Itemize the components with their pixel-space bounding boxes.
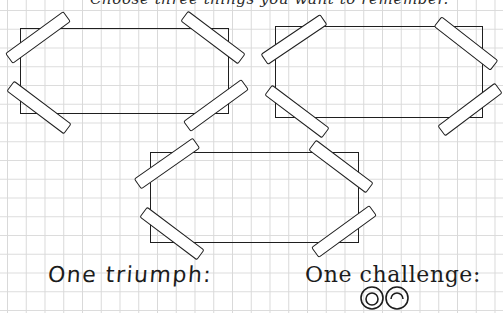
spiral-eyes-doodle-icon (355, 283, 415, 313)
photo-frame-3[interactable] (150, 152, 359, 243)
triumph-prompt: One triumph: (47, 262, 213, 287)
instruction-heading: Choose three things you want to remember… (90, 0, 400, 8)
photo-frame-1[interactable] (20, 28, 229, 114)
